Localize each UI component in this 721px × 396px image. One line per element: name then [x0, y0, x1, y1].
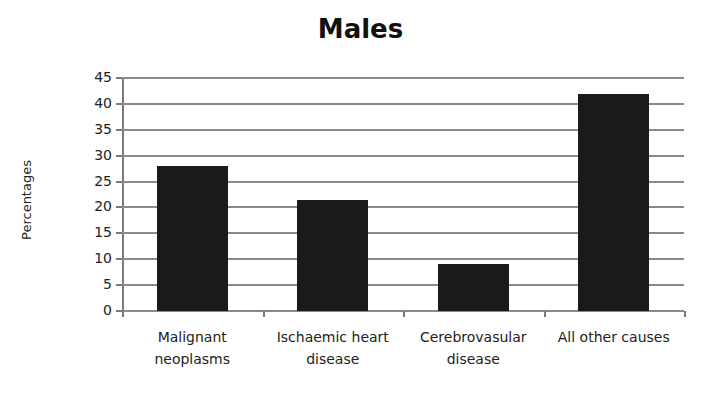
y-axis	[122, 78, 124, 311]
x-tick-label-line: Cerebrovasular	[403, 326, 543, 348]
y-tick-mark	[116, 258, 122, 260]
x-tick-label-line: Ischaemic heart	[263, 326, 403, 348]
y-tick-label: 0	[72, 302, 112, 318]
y-tick-label: 40	[72, 95, 112, 111]
bar	[297, 200, 368, 311]
y-tick-label: 10	[72, 250, 112, 266]
x-tick-label: Cerebrovasulardisease	[403, 326, 543, 370]
x-tick-label: All other causes	[544, 326, 684, 370]
x-tick-label-line: All other causes	[544, 326, 684, 348]
bar	[157, 166, 228, 311]
y-tick-mark	[116, 129, 122, 131]
y-tick-mark	[116, 181, 122, 183]
y-tick-mark	[116, 206, 122, 208]
y-axis-label: Percentages	[19, 160, 34, 240]
y-tick-mark	[116, 103, 122, 105]
y-tick-mark	[116, 155, 122, 157]
x-tick-label-line: neoplasms	[122, 348, 262, 370]
y-tick-label: 35	[72, 121, 112, 137]
x-tick-mark	[403, 311, 405, 317]
x-tick-mark	[122, 311, 124, 317]
y-tick-label: 20	[72, 198, 112, 214]
y-tick-mark	[116, 232, 122, 234]
bar	[578, 94, 649, 311]
y-tick-label: 30	[72, 147, 112, 163]
x-tick-label: Malignantneoplasms	[122, 326, 262, 370]
y-tick-label: 25	[72, 173, 112, 189]
x-tick-mark	[544, 311, 546, 317]
y-tick-mark	[116, 284, 122, 286]
y-tick-mark	[116, 77, 122, 79]
bar	[438, 264, 509, 311]
x-tick-mark	[684, 311, 686, 317]
x-tick-label-line: disease	[403, 348, 543, 370]
x-tick-mark	[263, 311, 265, 317]
plot-area	[122, 78, 684, 311]
chart-title: Males	[0, 14, 721, 44]
y-tick-label: 5	[72, 276, 112, 292]
x-tick-label-line: Malignant	[122, 326, 262, 348]
y-tick-label: 45	[72, 69, 112, 85]
gridline	[122, 77, 684, 79]
x-tick-label-line	[544, 348, 684, 370]
x-tick-label-line: disease	[263, 348, 403, 370]
y-tick-label: 15	[72, 224, 112, 240]
x-tick-label: Ischaemic heartdisease	[263, 326, 403, 370]
